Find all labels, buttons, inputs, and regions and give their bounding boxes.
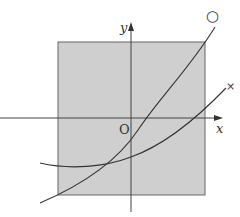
y-axis-arrow-icon (128, 22, 134, 31)
curve-circle-marker: ○ (206, 7, 219, 25)
origin-label: O (119, 122, 130, 137)
curve-cross-marker: × (226, 80, 235, 93)
y-axis-label: y (119, 20, 128, 35)
coordinate-diagram: y x O ○ × (0, 0, 240, 217)
x-axis-label: x (216, 121, 224, 136)
